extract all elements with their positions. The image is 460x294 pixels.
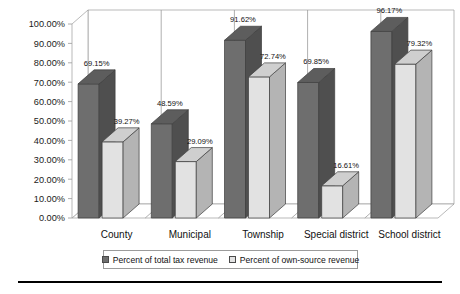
chart-legend: Percent of total tax revenue Percent of …	[103, 250, 358, 269]
bar-value-label: 39.27%	[114, 117, 140, 126]
bar-value-label: 48.59%	[157, 99, 183, 108]
y-axis-tick-label: 80.00%	[34, 58, 65, 68]
category-label: County	[101, 229, 133, 240]
category-label: Municipal	[169, 229, 211, 240]
y-axis-tick-label: 40.00%	[34, 136, 65, 146]
legend-label: Percent of total tax revenue	[113, 255, 218, 265]
bar-value-label: 69.15%	[84, 59, 110, 68]
bar-value-label: 91.62%	[230, 15, 256, 24]
bar-value-label: 79.32%	[407, 39, 433, 48]
category-label: Township	[242, 229, 284, 240]
bottom-horizontal-rule	[18, 281, 442, 283]
y-axis-tick-labels: 100.00%90.00%80.00%70.00%60.00%50.00%40.…	[29, 19, 65, 223]
legend-swatch-icon-light	[229, 256, 236, 263]
category-label: School district	[378, 229, 440, 240]
bar-own-source-revenue	[175, 148, 212, 218]
legend-label: Percent of own-source revenue	[240, 255, 359, 265]
legend-entry-own-source-revenue: Percent of own-source revenue	[229, 255, 359, 265]
legend-entry-total-tax-revenue: Percent of total tax revenue	[102, 255, 218, 265]
legend-swatch-icon-dark	[102, 256, 109, 263]
y-axis-tick-label: 30.00%	[34, 155, 65, 165]
y-axis-tick-label: 20.00%	[34, 175, 65, 185]
bar-value-label: 29.09%	[187, 137, 213, 146]
bar-own-source-revenue	[395, 50, 432, 218]
category-axis-labels: CountyMunicipalTownshipSpecial districtS…	[101, 229, 441, 240]
bar-own-source-revenue	[102, 128, 139, 218]
y-axis-tick-label: 50.00%	[34, 116, 65, 126]
y-axis-tick-label: 70.00%	[34, 78, 65, 88]
bar-value-label: 72.74%	[260, 52, 286, 61]
y-axis-tick-label: 90.00%	[34, 39, 65, 49]
bar-value-label: 69.85%	[303, 57, 329, 66]
figure-container: 100.00%90.00%80.00%70.00%60.00%50.00%40.…	[0, 0, 460, 294]
bar-own-source-revenue	[249, 63, 286, 218]
y-axis-tick-label: 100.00%	[29, 19, 65, 29]
y-axis-ticks	[68, 24, 72, 218]
y-axis-tick-label: 0.00%	[39, 213, 65, 223]
category-label: Special district	[304, 229, 369, 240]
y-axis-tick-label: 10.00%	[34, 194, 65, 204]
3d-bar-chart: 100.00%90.00%80.00%70.00%60.00%50.00%40.…	[0, 0, 460, 250]
bar-value-label: 16.61%	[333, 161, 359, 170]
y-axis-tick-label: 60.00%	[34, 97, 65, 107]
bar-value-label: 96.17%	[377, 6, 403, 15]
